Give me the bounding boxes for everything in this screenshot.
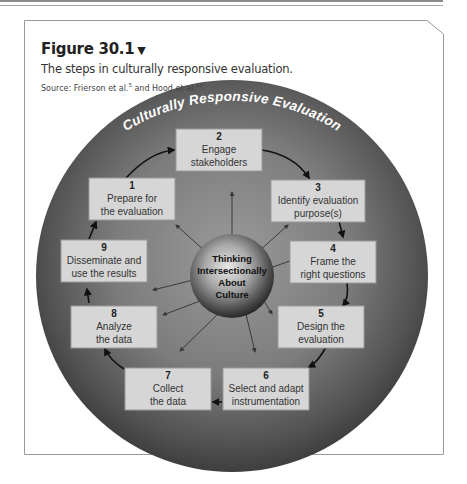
figure-title: Figure 30.1▼ [41,40,145,58]
figure-label: Figure 30.1 [41,40,134,58]
svg-text:instrumentation: instrumentation [232,396,300,407]
step-box-1: 1 Prepare for the evaluation [89,178,175,220]
center-sphere [190,234,274,318]
svg-text:Engage: Engage [202,144,237,155]
svg-text:Thinking: Thinking [212,253,252,264]
step-box-8: 8 Analyze the data [71,306,157,348]
svg-text:the evaluation: the evaluation [101,206,163,217]
svg-text:8: 8 [111,308,117,319]
step-box-2: 2 Engage stakeholders [176,129,262,171]
svg-text:the data: the data [150,396,187,407]
step-box-9: 9 Disseminate and use the results [61,240,147,282]
svg-text:1: 1 [129,180,135,191]
svg-text:3: 3 [315,182,321,193]
svg-text:Frame the: Frame the [310,256,356,267]
collapse-triangle-icon[interactable]: ▼ [137,44,145,57]
svg-text:use the results: use the results [71,268,136,279]
svg-text:9: 9 [101,242,107,253]
svg-text:evaluation: evaluation [298,334,344,345]
svg-text:the data: the data [96,334,133,345]
svg-text:7: 7 [165,370,171,381]
svg-text:Collect: Collect [153,383,184,394]
svg-text:Analyze: Analyze [96,321,132,332]
svg-text:Identify evaluation: Identify evaluation [278,195,359,206]
svg-text:right questions: right questions [300,269,365,280]
svg-text:Intersectionally: Intersectionally [197,265,267,276]
figure-source: Source: Frierson et al.5 and Hood et al.… [41,82,203,93]
svg-text:5: 5 [318,308,324,319]
svg-text:4: 4 [330,243,336,254]
svg-text:2: 2 [216,131,222,142]
svg-text:Prepare for: Prepare for [107,193,158,204]
step-box-4: 4 Frame the right questions [290,241,376,283]
step-box-6: 6 Select and adapt instrumentation [223,368,309,410]
svg-text:About: About [218,277,246,288]
svg-text:stakeholders: stakeholders [191,157,248,168]
svg-text:Culture: Culture [215,289,248,300]
step-box-3: 3 Identify evaluation purpose(s) [271,180,365,222]
svg-text:Select and adapt: Select and adapt [228,383,303,394]
step-box-5: 5 Design the evaluation [278,306,364,348]
figure-caption: The steps in culturally responsive evalu… [41,62,293,76]
svg-text:Design the: Design the [297,321,345,332]
svg-text:purpose(s): purpose(s) [294,208,342,219]
svg-text:6: 6 [263,370,269,381]
svg-text:Disseminate and: Disseminate and [67,255,141,266]
step-box-7: 7 Collect the data [125,368,211,410]
citation-11[interactable]: 11 [196,82,203,88]
